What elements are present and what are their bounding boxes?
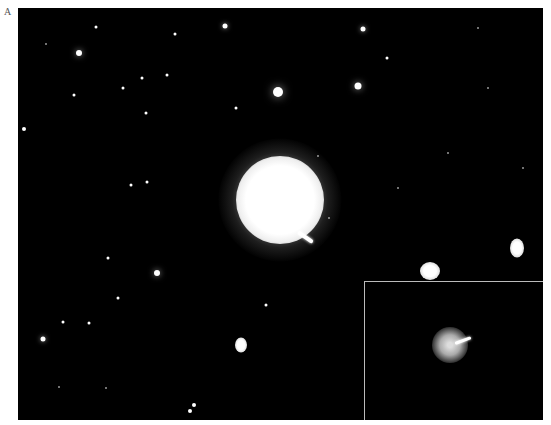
elliptical-galaxy — [510, 239, 524, 258]
star — [88, 322, 91, 325]
star — [58, 386, 60, 388]
star — [107, 257, 110, 260]
elliptical-galaxy — [235, 338, 247, 353]
star — [487, 87, 489, 89]
elliptical-galaxy — [420, 262, 440, 280]
star — [76, 50, 82, 56]
star — [174, 33, 177, 36]
star — [105, 387, 107, 389]
star — [95, 26, 98, 29]
star — [117, 297, 120, 300]
star — [154, 270, 160, 276]
star — [145, 112, 148, 115]
star — [188, 409, 192, 413]
star — [141, 77, 144, 80]
star — [397, 187, 399, 189]
star — [477, 27, 479, 29]
galaxy-image — [18, 8, 543, 420]
star — [146, 181, 149, 184]
panel-label: A — [4, 6, 11, 17]
star — [166, 74, 169, 77]
star — [41, 337, 46, 342]
star — [355, 83, 362, 90]
star — [522, 167, 524, 169]
zoom-inset — [364, 281, 543, 420]
star — [386, 57, 389, 60]
star — [235, 107, 238, 110]
star — [122, 87, 125, 90]
star — [265, 304, 268, 307]
star — [62, 321, 65, 324]
star — [273, 87, 283, 97]
star — [361, 27, 366, 32]
star — [192, 403, 196, 407]
main-galaxy — [236, 156, 324, 244]
star — [447, 152, 449, 154]
star — [223, 24, 228, 29]
star — [45, 43, 47, 45]
star — [22, 127, 26, 131]
star — [130, 184, 133, 187]
inset-galaxy — [432, 327, 468, 363]
star — [73, 94, 76, 97]
